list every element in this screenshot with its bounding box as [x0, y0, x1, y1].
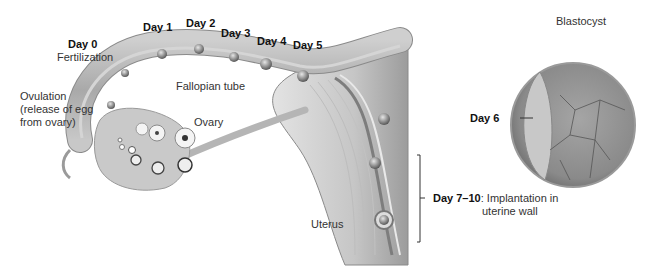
- label-day-7-10: Day 7–10: [433, 192, 481, 204]
- label-day-4: Day 4: [257, 35, 286, 47]
- label-ovulation-line1: Ovulation: [20, 90, 66, 103]
- label-day-1: Day 1: [143, 21, 172, 33]
- diagram: Day 0 Fertilization Day 1 Day 2 Day 3 Da…: [0, 0, 656, 273]
- label-implantation-line2: uterine wall: [482, 205, 538, 218]
- label-uterus: Uterus: [311, 218, 343, 231]
- label-day-5: Day 5: [293, 39, 322, 51]
- label-day-2: Day 2: [186, 17, 215, 29]
- label-ovary: Ovary: [194, 116, 223, 129]
- label-implantation-line1: : Implantation in: [481, 192, 559, 204]
- label-ovulation-line3: from ovary): [20, 116, 76, 129]
- reproductive-tract-illustration: [0, 0, 656, 273]
- label-ovulation-line2: (release of egg: [20, 103, 93, 116]
- blastocyst-illustration: [511, 63, 635, 187]
- label-day-3: Day 3: [221, 27, 250, 39]
- implantation-bracket: [417, 155, 425, 242]
- label-implantation: Day 7–10: Implantation in: [433, 192, 558, 205]
- label-day-0: Day 0: [68, 38, 97, 50]
- label-day-6: Day 6: [470, 112, 499, 124]
- label-fallopian-tube: Fallopian tube: [176, 80, 245, 93]
- label-blastocyst: Blastocyst: [556, 15, 606, 28]
- ovary-shape: [94, 108, 195, 190]
- label-fertilization: Fertilization: [57, 51, 113, 64]
